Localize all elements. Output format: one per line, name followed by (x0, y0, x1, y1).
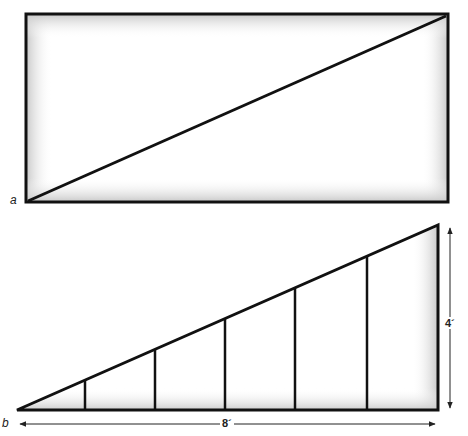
panel-b-triangle (17, 225, 438, 411)
diagram-canvas (0, 0, 468, 436)
width-label: 8´ (220, 417, 234, 429)
height-label: 4´ (443, 317, 457, 329)
panel-b-label: b (2, 416, 9, 430)
panel-a-label: a (10, 193, 17, 207)
panel-a-rectangle (26, 14, 448, 202)
